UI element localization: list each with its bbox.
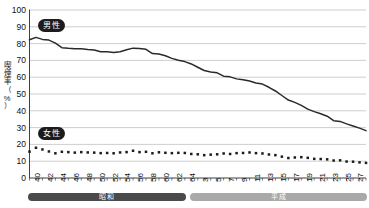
x-axis-tick-label: 7: [227, 178, 236, 182]
data-point-female: [365, 162, 368, 165]
data-point-female: [274, 154, 277, 157]
data-point-female: [125, 151, 128, 154]
series-line-male: [30, 37, 367, 130]
x-axis-tick-label: 42: [46, 173, 55, 182]
x-axis-tick-label: 46: [72, 173, 81, 182]
data-point-female: [307, 157, 310, 160]
data-point-female: [28, 150, 31, 153]
data-point-female: [255, 152, 257, 155]
data-point-female: [86, 151, 89, 154]
x-axis-tick-label: 54: [123, 173, 132, 182]
data-point-female: [35, 147, 38, 150]
data-point-female: [209, 153, 212, 156]
data-point-female: [281, 155, 284, 158]
data-point-female: [112, 152, 115, 155]
data-point-female: [93, 151, 96, 154]
x-axis-tick-label: 64: [188, 173, 197, 182]
data-point-female: [197, 153, 200, 156]
data-point-female: [358, 161, 361, 164]
data-point-female: [48, 150, 51, 153]
data-point-female: [164, 152, 167, 155]
data-point-female: [80, 151, 83, 154]
data-point-female: [261, 152, 264, 155]
x-axis-tick-label: 62: [175, 173, 184, 182]
data-point-female: [313, 158, 316, 161]
x-axis-tick-label: 60: [162, 173, 171, 182]
x-axis-tick-label: 27: [356, 173, 365, 182]
x-axis-tick-label: 5: [214, 178, 223, 182]
data-point-female: [332, 159, 335, 162]
x-axis-tick-label: 48: [85, 173, 94, 182]
data-point-female: [190, 153, 193, 156]
legend-male: 男性: [38, 19, 65, 32]
data-point-female: [151, 152, 154, 155]
data-point-female: [106, 152, 109, 155]
x-axis-tick-label: 21: [318, 173, 327, 182]
data-point-female: [216, 153, 219, 156]
era-band-heisei: 平成: [190, 193, 368, 201]
data-point-female: [287, 157, 290, 160]
x-axis-tick-label: 3: [201, 178, 210, 182]
data-point-female: [177, 152, 180, 155]
x-axis-tick-label: 58: [149, 173, 158, 182]
x-axis-tick-label: 23: [331, 173, 340, 182]
x-axis-tick-label: 50: [98, 173, 107, 182]
data-point-female: [294, 156, 297, 159]
smoking-rate-chart: 喫煙率（%） 0102030405060708090100 4042444648…: [0, 0, 369, 208]
x-axis-tick-label: 9: [240, 178, 249, 182]
x-axis-tick-label: 52: [111, 173, 120, 182]
data-point-female: [268, 153, 271, 156]
data-point-female: [352, 160, 355, 163]
x-axis-tick-label: 13: [266, 173, 275, 182]
data-point-female: [74, 151, 77, 154]
x-axis-tick-label: 44: [59, 173, 68, 182]
data-point-female: [119, 151, 122, 154]
legend-female: 女性: [38, 127, 65, 140]
x-axis-tick-label: 11: [253, 174, 262, 182]
data-point-female: [319, 158, 322, 161]
data-point-female: [235, 152, 238, 155]
data-point-female: [248, 151, 251, 154]
x-axis-tick-label: 19: [305, 173, 314, 182]
data-point-female: [158, 151, 161, 154]
data-point-female: [41, 148, 44, 151]
data-point-female: [300, 156, 303, 159]
x-axis-tick-label: 17: [292, 173, 301, 182]
data-point-female: [145, 151, 148, 154]
data-point-female: [171, 152, 174, 155]
data-point-female: [222, 152, 225, 155]
data-point-female: [184, 152, 187, 155]
data-point-female: [138, 151, 141, 154]
x-axis-tick-label: 56: [136, 173, 145, 182]
data-point-female: [339, 159, 342, 162]
data-point-female: [67, 151, 70, 154]
data-point-female: [203, 154, 206, 157]
data-point-female: [242, 152, 245, 155]
data-point-female: [345, 160, 348, 163]
data-point-female: [229, 153, 232, 156]
era-band-showa: 昭和: [28, 193, 186, 201]
x-axis-tick-label: 25: [344, 173, 353, 182]
data-point-female: [132, 150, 135, 153]
x-axis-tick-label: 40: [33, 173, 42, 182]
data-point-female: [61, 151, 64, 154]
data-point-female: [326, 158, 329, 161]
data-point-female: [99, 152, 102, 155]
x-axis-tick-label: 15: [279, 173, 288, 182]
data-point-female: [54, 152, 57, 155]
